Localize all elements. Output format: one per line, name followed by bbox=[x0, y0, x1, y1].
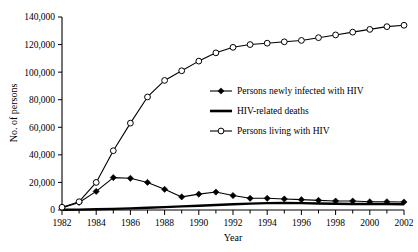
data-point-circle bbox=[350, 29, 356, 35]
legend-label: Persons newly infected with HIV bbox=[237, 86, 364, 96]
data-point-circle bbox=[333, 32, 339, 38]
data-point-circle bbox=[162, 78, 168, 84]
legend-marker-circle bbox=[218, 128, 224, 134]
y-tick-label: 0 bbox=[50, 205, 55, 215]
x-tick-label: 1986 bbox=[121, 218, 140, 228]
chart-container: No. of persons 020,00040,00060,00080,000… bbox=[0, 0, 418, 252]
x-axis-title: Year bbox=[224, 232, 243, 243]
data-point-circle bbox=[264, 40, 270, 46]
data-point-circle bbox=[110, 148, 116, 154]
x-tick-label: 1982 bbox=[53, 218, 72, 228]
data-point-circle bbox=[384, 24, 390, 30]
data-point-circle bbox=[247, 42, 253, 48]
data-point-circle bbox=[299, 38, 305, 44]
data-point-circle bbox=[401, 22, 407, 28]
chart-background bbox=[0, 0, 418, 252]
data-point-circle bbox=[213, 50, 219, 56]
legend-label: Persons living with HIV bbox=[237, 126, 330, 136]
y-tick-label: 20,000 bbox=[29, 178, 55, 188]
data-point-circle bbox=[76, 199, 82, 205]
x-tick-label: 2000 bbox=[360, 218, 379, 228]
x-tick-label: 1996 bbox=[292, 218, 311, 228]
x-tick-label: 1992 bbox=[224, 218, 243, 228]
data-point-circle bbox=[127, 120, 133, 126]
data-point-circle bbox=[145, 94, 151, 100]
hiv-trends-line-chart: No. of persons 020,00040,00060,00080,000… bbox=[0, 0, 418, 252]
x-tick-label: 1984 bbox=[87, 218, 106, 228]
data-point-circle bbox=[281, 39, 287, 45]
x-tick-label: 2002 bbox=[395, 218, 414, 228]
y-axis-title: No. of persons bbox=[8, 84, 19, 143]
data-point-circle bbox=[179, 68, 185, 74]
data-point-circle bbox=[230, 44, 236, 50]
x-tick-label: 1990 bbox=[189, 218, 208, 228]
legend-label: HIV-related deaths bbox=[237, 106, 309, 116]
x-tick-label: 1988 bbox=[155, 218, 174, 228]
data-point-circle bbox=[93, 180, 99, 186]
x-tick-label: 1998 bbox=[326, 218, 345, 228]
y-tick-label: 40,000 bbox=[29, 150, 55, 160]
data-point-circle bbox=[59, 204, 65, 210]
data-point-circle bbox=[367, 27, 373, 33]
data-point-circle bbox=[196, 58, 202, 64]
y-tick-label: 140,000 bbox=[24, 12, 55, 22]
data-point-circle bbox=[316, 35, 322, 41]
y-tick-label: 120,000 bbox=[24, 40, 55, 50]
y-tick-label: 100,000 bbox=[24, 68, 55, 78]
x-tick-label: 1994 bbox=[258, 218, 277, 228]
y-tick-label: 80,000 bbox=[29, 95, 55, 105]
y-tick-label: 60,000 bbox=[29, 123, 55, 133]
